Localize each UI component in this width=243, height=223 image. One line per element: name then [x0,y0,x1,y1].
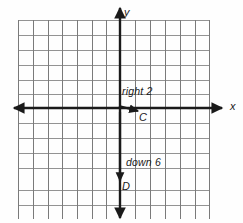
text-label-layer: y x right 2 down 6 C D [0,0,243,223]
point-label-d: D [122,181,130,192]
y-axis-label: y [124,7,130,18]
point-label-c: C [139,112,147,123]
coordinate-grid-figure: y x right 2 down 6 C D [0,0,243,223]
right-2-label: right 2 [122,86,153,97]
x-axis-label: x [230,101,236,112]
down-6-label: down 6 [126,157,161,168]
